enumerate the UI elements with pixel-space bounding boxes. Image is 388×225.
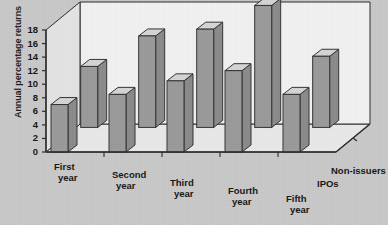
series-label-ipos: IPOs [317, 178, 339, 189]
category-label-line2: year [170, 189, 194, 200]
category-label-line1: Fourth [228, 186, 258, 197]
category-label-3: Thirdyear [170, 178, 194, 199]
bar-ipos-1 [51, 98, 77, 152]
category-label-line2: year [54, 173, 78, 184]
bar-ipos-5 [283, 87, 309, 152]
category-label-line2: year [228, 197, 258, 208]
category-label-1: Firstyear [54, 162, 78, 183]
category-label-2: Secondyear [112, 170, 146, 191]
bar-non-issuers-2 [139, 29, 165, 128]
plot-svg [0, 0, 388, 225]
bar-non-issuers-4 [255, 0, 281, 127]
bar-chart-figure: Annual percentage returns 02468101214161… [0, 0, 388, 225]
bar-non-issuers-1 [81, 59, 107, 127]
plot-area [0, 0, 388, 225]
category-label-4: Fourthyear [228, 186, 258, 207]
bar-ipos-4 [225, 64, 251, 152]
category-label-line2: year [286, 205, 310, 216]
series-label-non-issuers: Non-issuers [331, 165, 386, 176]
bar-non-issuers-3 [197, 22, 223, 127]
category-label-line1: Second [112, 170, 146, 181]
category-label-line1: Third [170, 178, 194, 189]
category-label-5: Fifthyear [286, 194, 310, 215]
category-label-line2: year [112, 181, 146, 192]
bar-ipos-2 [109, 87, 135, 152]
bar-ipos-3 [167, 74, 193, 152]
category-label-line1: First [54, 162, 78, 173]
category-label-line1: Fifth [286, 194, 310, 205]
bar-non-issuers-5 [313, 49, 339, 127]
